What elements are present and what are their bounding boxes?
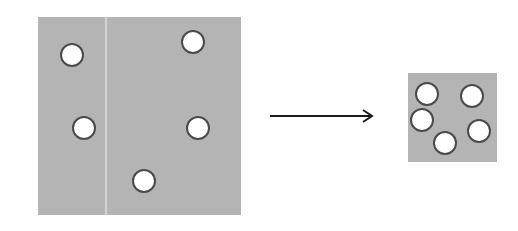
circle <box>187 117 209 139</box>
circle <box>182 31 204 53</box>
circle <box>468 120 490 142</box>
large-square-group <box>38 17 241 215</box>
diagram-canvas <box>0 0 518 231</box>
circle <box>461 85 483 107</box>
circle <box>133 170 155 192</box>
transform-arrow <box>270 110 372 122</box>
circle <box>61 44 83 66</box>
circle <box>73 117 95 139</box>
circle <box>416 83 438 105</box>
circle <box>411 109 433 131</box>
circle <box>434 132 456 154</box>
small-square-group <box>408 73 497 162</box>
